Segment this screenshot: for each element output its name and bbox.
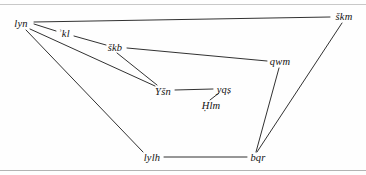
edge-skm-bqr [257, 23, 342, 152]
node-label-hlm: Ḥlm [202, 100, 221, 111]
node-label-skm: škm [336, 11, 353, 22]
node-label-kl: ʾkl [58, 28, 70, 39]
edge-lyn-skm [34, 17, 330, 22]
edge-lyn-lylh [26, 30, 143, 152]
node-label-lyn: lyn [14, 18, 27, 29]
edge-lyn-ysn [30, 29, 155, 86]
edge-skb-qwm [127, 48, 267, 61]
node-label-bqr: bqr [250, 152, 265, 163]
edge-lyn-kl [34, 24, 56, 31]
diagram-canvas: lynʾklškbškmqwmYšnyqṣḤlmlylhbqr [0, 0, 366, 175]
node-label-skb: škb [108, 42, 123, 53]
node-label-ysn: Yšn [155, 86, 171, 97]
node-label-yqs: yqṣ [217, 84, 232, 95]
edge-qwm-bqr [256, 68, 279, 152]
edge-skb-ysn [117, 53, 157, 85]
node-label-lylh: lylh [144, 152, 161, 163]
diagram-edges-layer [0, 0, 366, 175]
edge-ysn-yqs [175, 89, 213, 90]
node-label-qwm: qwm [270, 56, 290, 67]
edge-kl-skb [74, 36, 106, 45]
